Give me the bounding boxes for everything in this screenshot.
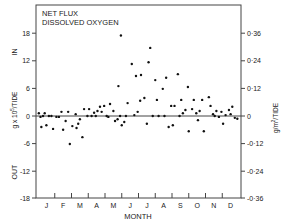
direction-in-label: IN bbox=[11, 49, 18, 56]
data-point bbox=[163, 115, 165, 117]
data-point bbox=[136, 111, 138, 113]
data-point bbox=[208, 96, 210, 98]
data-point bbox=[52, 128, 54, 130]
data-point bbox=[201, 99, 203, 101]
x-axis-label: MONTH bbox=[124, 212, 152, 221]
y-left-tick-label: -18 bbox=[20, 195, 30, 202]
data-point bbox=[178, 115, 180, 117]
y-right-tick-label: 0·12 bbox=[247, 85, 261, 92]
data-point bbox=[114, 120, 116, 122]
y-left-tick-label: -12 bbox=[20, 168, 30, 175]
data-point bbox=[62, 129, 64, 131]
data-point bbox=[109, 103, 111, 105]
y-axis-left-label: g x 105/TIDE bbox=[10, 91, 19, 129]
data-point bbox=[195, 112, 197, 114]
data-point bbox=[170, 105, 172, 107]
data-point bbox=[42, 115, 44, 117]
x-tick-label: F bbox=[61, 202, 65, 209]
y-axis-right: 0·360·240·120-0·12-0·24-0·36 bbox=[241, 30, 263, 202]
data-point bbox=[77, 123, 79, 125]
x-tick-label: M bbox=[77, 202, 83, 209]
x-tick-label: O bbox=[194, 202, 200, 209]
data-point bbox=[224, 114, 226, 116]
data-point bbox=[162, 88, 164, 90]
data-point bbox=[149, 47, 151, 49]
data-point bbox=[173, 105, 175, 107]
data-point bbox=[93, 112, 95, 114]
data-point bbox=[135, 75, 137, 77]
data-point bbox=[60, 111, 62, 113]
data-point bbox=[112, 110, 114, 112]
net-flux-dissolved-oxygen-chart: NET FLUX DISSOLVED OXYGEN 181260-6-12-18… bbox=[0, 0, 286, 224]
data-point bbox=[40, 126, 42, 128]
data-point bbox=[50, 115, 52, 117]
x-tick-label: D bbox=[228, 202, 233, 209]
y-left-tick-label: 6 bbox=[26, 85, 30, 92]
data-point bbox=[48, 115, 50, 117]
y-left-tick-label: 0 bbox=[26, 113, 30, 120]
y-left-tick-label: -6 bbox=[24, 140, 30, 147]
data-point bbox=[117, 85, 119, 87]
data-point bbox=[39, 116, 41, 118]
data-point bbox=[90, 115, 92, 117]
data-point bbox=[152, 115, 154, 117]
x-axis: JFMAMJJASOND bbox=[45, 193, 234, 209]
x-tick-label: J bbox=[128, 202, 132, 209]
data-point bbox=[146, 123, 148, 125]
data-point bbox=[156, 99, 158, 101]
data-point bbox=[75, 127, 77, 129]
data-point bbox=[167, 126, 169, 128]
data-point bbox=[83, 108, 85, 110]
x-tick-label: A bbox=[161, 202, 166, 209]
data-point bbox=[184, 109, 186, 111]
data-point bbox=[215, 110, 217, 112]
data-point bbox=[177, 73, 179, 75]
y-right-tick-label: 0·36 bbox=[247, 30, 261, 37]
data-point bbox=[86, 115, 88, 117]
x-tick-label: J bbox=[45, 202, 49, 209]
data-point bbox=[209, 105, 211, 107]
direction-out-label: OUT bbox=[11, 164, 18, 180]
data-point bbox=[212, 113, 214, 115]
data-point bbox=[187, 86, 189, 88]
data-point bbox=[139, 100, 141, 102]
data-point bbox=[188, 130, 190, 132]
data-point bbox=[222, 123, 224, 125]
data-points bbox=[38, 34, 239, 145]
x-tick-label: M bbox=[110, 202, 116, 209]
data-point bbox=[88, 108, 90, 110]
data-point bbox=[143, 97, 145, 99]
y-axis-right-label: g/m2/TIDE bbox=[271, 102, 280, 133]
y-right-tick-label: -0·36 bbox=[247, 195, 263, 202]
data-point bbox=[71, 125, 73, 127]
data-point bbox=[55, 116, 57, 118]
data-point bbox=[121, 124, 123, 126]
data-point bbox=[236, 118, 238, 120]
data-point bbox=[172, 124, 174, 126]
data-point bbox=[165, 77, 167, 79]
chart-title: NET FLUX bbox=[42, 9, 78, 18]
data-point bbox=[231, 106, 233, 108]
x-tick-label: J bbox=[145, 202, 149, 209]
y-right-tick-label: 0 bbox=[247, 113, 251, 120]
data-point bbox=[193, 99, 195, 101]
data-point bbox=[203, 130, 205, 132]
data-point bbox=[191, 108, 193, 110]
data-point bbox=[125, 115, 127, 117]
data-point bbox=[140, 74, 142, 76]
data-point bbox=[67, 111, 69, 113]
data-point bbox=[220, 111, 222, 113]
data-point bbox=[81, 136, 83, 138]
plot-frame bbox=[36, 5, 241, 198]
data-point bbox=[74, 113, 76, 115]
data-point bbox=[182, 112, 184, 114]
data-point bbox=[103, 105, 105, 107]
x-tick-label: N bbox=[211, 202, 216, 209]
y-right-tick-label: 0·24 bbox=[247, 57, 261, 64]
data-point bbox=[147, 61, 149, 63]
data-point bbox=[38, 112, 40, 114]
data-point bbox=[100, 111, 102, 113]
data-point bbox=[218, 116, 220, 118]
data-point bbox=[131, 63, 133, 65]
data-point bbox=[44, 112, 46, 114]
